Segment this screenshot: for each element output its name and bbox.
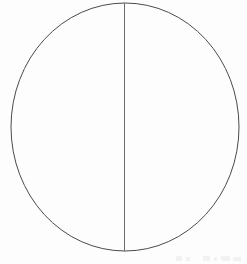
figure-page: Circle divided by a vertical diameter bbox=[0, 0, 247, 264]
geometric-figure: Circle divided by a vertical diameter bbox=[0, 0, 247, 264]
